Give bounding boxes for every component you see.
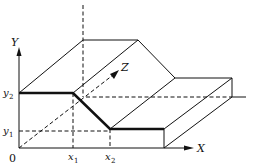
tick-x2: x 2: [105, 151, 115, 165]
axes: [17, 47, 195, 151]
edge-right-bottom-depth: [164, 97, 232, 148]
edge-left-depth: [19, 40, 83, 93]
tick-y1: y 1: [2, 125, 13, 139]
x-axis-label: X: [196, 142, 206, 155]
z-axis-label: Z: [120, 61, 129, 74]
edge-x2-depth: [110, 78, 175, 129]
guide-lines: [19, 5, 232, 148]
edge-right-top-depth: [164, 78, 232, 129]
tick-x1: x 1: [68, 151, 78, 165]
svg-text:y: y: [2, 125, 9, 136]
svg-text:2: 2: [9, 93, 13, 101]
z-axis: [19, 75, 113, 148]
svg-text:1: 1: [74, 157, 78, 165]
step-surface-diagram: Y X Z 0 y 2 y 1 x 1 x 2: [0, 0, 256, 167]
svg-text:2: 2: [111, 157, 115, 165]
origin-label: 0: [9, 152, 16, 165]
svg-text:1: 1: [9, 131, 13, 139]
z-axis-arrow-icon: [110, 70, 119, 79]
back-profile: [83, 40, 232, 97]
tick-y2: y 2: [2, 87, 13, 101]
front-profile: [19, 93, 164, 129]
y-axis-label: Y: [11, 36, 20, 49]
svg-text:y: y: [2, 87, 9, 98]
x-axis-arrow-icon: [184, 146, 194, 151]
